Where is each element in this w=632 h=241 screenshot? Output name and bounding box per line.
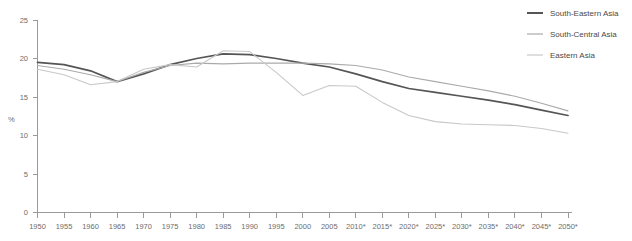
legend-label-0: South-Eastern Asia: [550, 9, 619, 18]
line-chart: 0510152025 % 195019551960196519701975198…: [0, 0, 632, 241]
x-tick-label: 2050*: [558, 222, 578, 231]
x-tick-label: 1995: [268, 222, 285, 231]
x-tick-label: 2000: [294, 222, 311, 231]
y-tick-label: 5: [24, 170, 28, 179]
x-tick-label: 2030*: [452, 222, 472, 231]
x-axis: 1950195519601965197019751980198519901995…: [29, 213, 578, 232]
y-axis-label: %: [8, 115, 15, 124]
series-group: [38, 51, 569, 133]
x-tick-label: 1975: [162, 222, 179, 231]
chart-svg: 0510152025 % 195019551960196519701975198…: [0, 0, 632, 241]
x-tick-label: 2025*: [426, 222, 446, 231]
x-tick-label: 2005: [321, 222, 338, 231]
y-tick-label: 15: [20, 93, 28, 102]
y-tick-label: 0: [24, 208, 28, 217]
x-tick-label: 1965: [109, 222, 126, 231]
x-tick-label: 1980: [188, 222, 205, 231]
y-tick-label: 20: [20, 54, 28, 63]
y-tick-label: 10: [20, 131, 28, 140]
x-tick-label: 2015*: [373, 222, 393, 231]
x-tick-label: 2010*: [346, 222, 366, 231]
y-tick-label: 25: [20, 16, 28, 25]
x-tick-label: 2020*: [399, 222, 419, 231]
x-tick-label: 1990: [241, 222, 258, 231]
legend-label-2: Eastern Asia: [550, 51, 595, 60]
x-tick-label: 1950: [29, 222, 46, 231]
x-tick-label: 1970: [135, 222, 152, 231]
x-tick-label: 1955: [56, 222, 73, 231]
x-tick-group: 1950195519601965197019751980198519901995…: [29, 213, 578, 232]
x-tick-label: 1985: [215, 222, 232, 231]
x-tick-label: 2045*: [532, 222, 552, 231]
chart-legend: South-Eastern AsiaSouth-Central AsiaEast…: [527, 9, 619, 60]
x-tick-label: 2035*: [479, 222, 499, 231]
series-line-1: [38, 63, 569, 111]
y-axis: 0510152025 %: [8, 16, 38, 218]
legend-label-1: South-Central Asia: [550, 30, 617, 39]
x-tick-label: 1960: [82, 222, 99, 231]
x-tick-label: 2040*: [505, 222, 525, 231]
y-tick-group: 0510152025: [20, 16, 38, 218]
